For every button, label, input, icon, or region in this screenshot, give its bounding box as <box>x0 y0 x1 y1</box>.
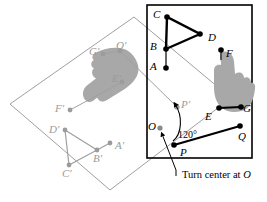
caption-point-label: O <box>243 169 251 180</box>
label-F: F <box>226 48 233 59</box>
label-Cprime: C′ <box>62 168 72 179</box>
label-B: B <box>150 41 157 52</box>
segment-E-G <box>219 107 241 108</box>
label-D: D <box>208 32 216 43</box>
point-P <box>171 142 177 148</box>
point-Dprime <box>63 128 68 133</box>
point-D <box>197 31 203 37</box>
label-Q: Q <box>238 131 246 142</box>
label-P: P <box>180 147 187 158</box>
point-Fprime <box>68 108 73 113</box>
point-A <box>163 65 169 71</box>
label-Eprime: E′ <box>112 73 121 84</box>
triangle-original <box>166 17 200 49</box>
point-E <box>216 105 222 111</box>
label-Pprime: P′ <box>181 99 190 110</box>
label-E: E <box>205 111 212 122</box>
point-Q <box>237 123 243 129</box>
caption-text: Turn center at <box>182 169 243 180</box>
point-F <box>218 47 224 53</box>
rotation-diagram: A B C D E F G O P Q P′ A′ B′ C′ D′ E′ F′… <box>0 0 267 202</box>
label-A: A <box>150 61 157 72</box>
label-C: C <box>153 9 160 20</box>
label-Fprime: F′ <box>55 103 64 114</box>
label-Dprime: D′ <box>49 124 59 135</box>
angle-label: 120° <box>178 130 197 140</box>
hand-image-shape <box>67 37 146 110</box>
label-G: G <box>243 103 251 114</box>
point-O <box>157 125 162 130</box>
label-O: O <box>148 121 156 132</box>
label-Gprime: G′ <box>89 46 99 57</box>
label-Aprime: A′ <box>115 140 124 151</box>
point-B <box>163 46 169 52</box>
label-Bprime: B′ <box>93 153 102 164</box>
point-Gprime <box>101 52 106 57</box>
label-Qprime: Q′ <box>116 40 126 51</box>
figure-caption: Turn center at O <box>182 170 251 181</box>
point-C <box>164 14 170 20</box>
point-Aprime <box>108 141 113 146</box>
